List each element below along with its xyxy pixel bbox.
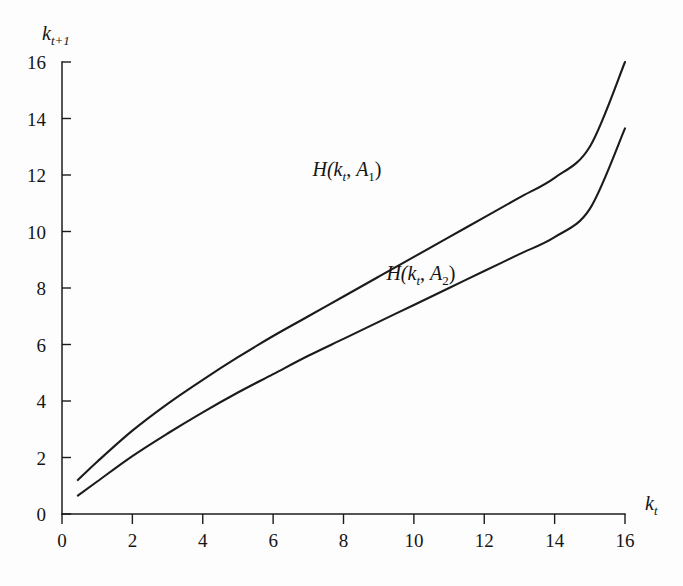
figure-root: 0246810121416 0246810121416 H(kt, A1) H(…: [0, 0, 683, 586]
x-tick-label: 2: [128, 530, 138, 551]
x-tick-label: 16: [616, 530, 635, 551]
curve-label-h-kt-a1: H(kt, A1): [312, 158, 382, 184]
y-axis-ticks: 0246810121416: [27, 52, 71, 525]
x-tick-label: 0: [57, 530, 67, 551]
x-tick-label: 4: [198, 530, 208, 551]
x-tick-label: 6: [268, 530, 278, 551]
y-tick-label: 14: [27, 109, 47, 130]
y-tick-label: 6: [37, 335, 47, 356]
curve-label-h-kt-a2: H(kt, A2): [385, 262, 455, 288]
x-tick-label: 14: [545, 530, 565, 551]
y-axis-title: kt+1: [42, 22, 70, 48]
curve-h-kt-a1: [78, 62, 625, 480]
x-axis-ticks: 0246810121416: [57, 514, 634, 551]
y-tick-label: 4: [37, 391, 47, 412]
chart-canvas: 0246810121416 0246810121416 H(kt, A1) H(…: [0, 0, 683, 586]
y-tick-label: 10: [27, 222, 46, 243]
y-tick-label: 12: [27, 165, 46, 186]
y-tick-label: 0: [37, 504, 47, 525]
curve-h-kt-a2: [78, 128, 625, 495]
y-tick-label: 16: [27, 52, 46, 73]
x-axis-title: kt: [645, 492, 658, 518]
x-tick-label: 8: [339, 530, 349, 551]
y-tick-label: 2: [37, 448, 47, 469]
y-tick-label: 8: [37, 278, 47, 299]
x-tick-label: 12: [475, 530, 494, 551]
x-tick-label: 10: [404, 530, 423, 551]
